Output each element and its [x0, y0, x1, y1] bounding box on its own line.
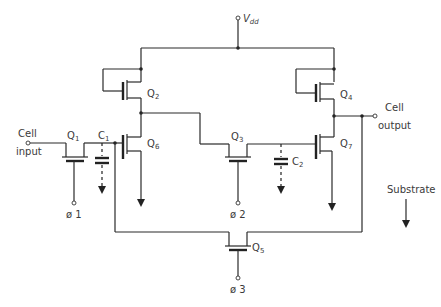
cell-output: Cell output — [373, 102, 411, 131]
input-terminal-icon[interactable] — [26, 141, 30, 145]
transistor-q5: ø 3 Q5 — [225, 232, 264, 295]
ground-arrow-icon — [277, 186, 285, 194]
svg-text:Q1: Q1 — [67, 130, 79, 143]
input-label-line2: input — [16, 146, 42, 157]
output-label-line1: Cell — [385, 102, 404, 113]
ground-arrow-icon — [98, 186, 106, 194]
vdd-terminal-icon — [236, 16, 240, 20]
transistor-q7: Q7 — [316, 116, 352, 211]
cell-input: Cell input — [16, 128, 66, 157]
phi3-terminal-icon[interactable] — [236, 276, 240, 280]
phi1-label: ø 1 — [66, 209, 82, 220]
transistor-q4: Q4 — [296, 48, 353, 116]
capacitor-c2: C2 — [274, 144, 303, 194]
svg-text:Q6: Q6 — [147, 138, 160, 151]
svg-text:C2: C2 — [292, 156, 303, 169]
substrate-arrow-icon — [402, 220, 410, 228]
svg-text:Vdd: Vdd — [243, 13, 259, 26]
svg-text:Q7: Q7 — [340, 138, 352, 151]
phi2-label: ø 2 — [230, 209, 246, 220]
svg-text:Q5: Q5 — [252, 242, 264, 255]
transistor-q6: Q6 — [123, 113, 160, 207]
capacitor-c1: C1 — [95, 130, 109, 194]
phi1-terminal-icon[interactable] — [72, 201, 76, 205]
svg-text:Q3: Q3 — [231, 131, 243, 144]
vdd-supply: Vdd — [236, 13, 259, 50]
svg-text:Q2: Q2 — [147, 88, 159, 101]
output-terminal-icon[interactable] — [373, 114, 377, 118]
substrate-legend: Substrate — [387, 184, 435, 228]
output-label-line2: output — [378, 120, 411, 131]
phi3-label: ø 3 — [230, 284, 246, 295]
vdd-sub: dd — [250, 18, 259, 26]
input-label-line1: Cell — [18, 128, 37, 139]
circuit-diagram: Vdd Q2 Q6 Cell input — [0, 0, 441, 307]
ground-arrow-icon — [328, 203, 336, 211]
transistor-q3: ø 2 Q3 — [225, 131, 316, 220]
svg-text:Q4: Q4 — [340, 89, 353, 102]
svg-text:C1: C1 — [98, 130, 109, 143]
transistor-q1: ø 1 Q1 — [62, 130, 115, 220]
phi2-terminal-icon[interactable] — [236, 201, 240, 205]
substrate-label: Substrate — [387, 184, 435, 195]
ground-arrow-icon — [137, 199, 145, 207]
transistor-q2: Q2 — [103, 48, 159, 113]
